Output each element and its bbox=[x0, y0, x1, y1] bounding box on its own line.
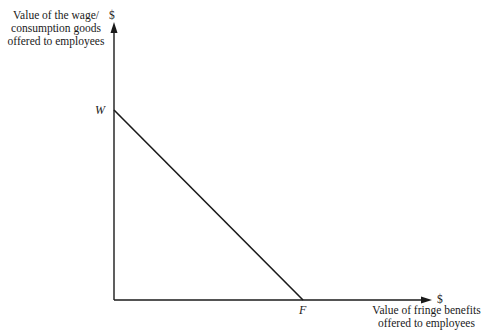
x-axis-label-line: Value of fringe benefits bbox=[364, 304, 489, 317]
y-axis-label-line: consumption goods bbox=[4, 22, 108, 35]
y-axis-label-line: offered to employees bbox=[4, 35, 108, 48]
x-axis-label: Value of fringe benefits offered to empl… bbox=[364, 304, 489, 330]
y-axis-unit: $ bbox=[109, 9, 115, 21]
y-axis-label: Value of the wage/ consumption goods off… bbox=[4, 9, 108, 48]
x-axis-label-line: offered to employees bbox=[364, 317, 489, 330]
y-axis-label-line: Value of the wage/ bbox=[4, 9, 108, 22]
chart-plot-area bbox=[0, 0, 491, 335]
point-w-label: W bbox=[95, 103, 105, 118]
x-axis-unit: $ bbox=[437, 293, 443, 305]
y-axis-arrowhead-icon bbox=[111, 22, 118, 33]
point-f-label: F bbox=[299, 303, 306, 318]
x-axis-arrowhead-icon bbox=[421, 297, 432, 304]
budget-line-wf bbox=[114, 110, 303, 300]
